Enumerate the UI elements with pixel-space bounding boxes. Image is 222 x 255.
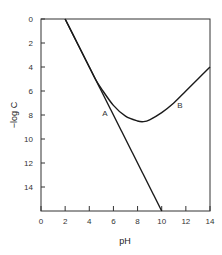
x-axis-label: pH (119, 236, 131, 246)
y-tick-label: 8 (29, 111, 34, 120)
y-tick-label: 14 (24, 183, 33, 192)
y-axis-ticks: 02468101214 (24, 15, 45, 192)
x-axis-ticks: 02468101214 (39, 206, 215, 226)
x-tick-label: 14 (206, 217, 215, 226)
chart: 02468101214 02468101214 pH −log C AB (0, 0, 222, 255)
x-tick-label: 10 (157, 217, 166, 226)
y-axis-label: −log C (9, 101, 19, 128)
plot-frame (41, 19, 210, 211)
series-group: AB (65, 19, 210, 211)
x-tick-label: 6 (111, 217, 116, 226)
y-tick-label: 6 (29, 87, 34, 96)
y-tick-label: 10 (24, 135, 33, 144)
curve-b (65, 19, 210, 122)
y-tick-label: 4 (29, 63, 34, 72)
x-tick-label: 12 (181, 217, 190, 226)
y-tick-label: 12 (24, 159, 33, 168)
x-tick-label: 8 (135, 217, 140, 226)
curve-label-b: B (177, 101, 182, 110)
x-tick-label: 2 (63, 217, 68, 226)
y-tick-label: 0 (29, 15, 34, 24)
x-tick-label: 0 (39, 217, 44, 226)
y-tick-label: 2 (29, 39, 34, 48)
x-tick-label: 4 (87, 217, 92, 226)
curve-label-a: A (102, 109, 108, 118)
